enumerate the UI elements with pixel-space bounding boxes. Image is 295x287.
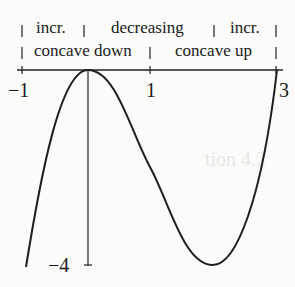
label-incr-2: incr.	[230, 19, 260, 36]
tick-label-x-1: 1	[146, 80, 156, 100]
label-incr-1: incr.	[36, 19, 66, 36]
label-concave-down: concave down	[34, 42, 132, 59]
label-decreasing: decreasing	[111, 19, 184, 36]
label-concave-up: concave up	[175, 42, 252, 59]
tick-label-y-minus4: −4	[48, 255, 69, 275]
tick-label-x-minus1: −1	[8, 80, 29, 100]
tick-label-x-3: 3	[279, 80, 289, 100]
